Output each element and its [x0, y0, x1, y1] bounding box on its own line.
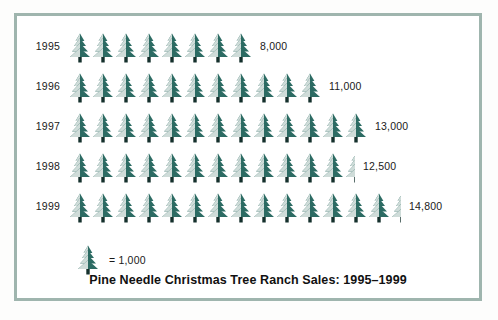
row-value-label: 14,800	[402, 200, 442, 212]
christmas-tree-icon	[230, 152, 252, 183]
christmas-tree-icon	[230, 32, 252, 63]
row-value-label: 13,000	[368, 120, 408, 132]
row-icon-group	[69, 109, 368, 143]
pictograph-legend: = 1,000	[77, 244, 146, 275]
pictograph-frame: 19958,000199611,000199713,000199812,5001…	[14, 13, 482, 301]
christmas-tree-icon	[184, 72, 206, 103]
christmas-tree-icon	[253, 72, 275, 103]
christmas-tree-icon	[345, 192, 367, 223]
row-value-label: 11,000	[322, 80, 362, 92]
christmas-tree-icon	[138, 112, 160, 143]
christmas-tree-icon	[207, 72, 229, 103]
christmas-tree-icon	[345, 112, 367, 143]
row-year-label: 1997	[17, 120, 69, 132]
row-icon-group	[69, 189, 402, 223]
christmas-tree-icon	[207, 192, 229, 223]
christmas-tree-icon	[276, 192, 298, 223]
christmas-tree-icon	[115, 72, 137, 103]
christmas-tree-icon	[92, 72, 114, 103]
christmas-tree-icon	[230, 72, 252, 103]
christmas-tree-icon	[322, 152, 344, 183]
christmas-tree-icon	[69, 152, 91, 183]
christmas-tree-icon	[184, 192, 206, 223]
christmas-tree-icon	[322, 112, 344, 143]
christmas-tree-icon	[276, 112, 298, 143]
christmas-tree-icon	[138, 152, 160, 183]
christmas-tree-icon	[299, 112, 321, 143]
row-value-label: 12,500	[356, 160, 396, 172]
christmas-tree-icon-partial	[391, 192, 401, 223]
christmas-tree-icon	[69, 32, 91, 63]
christmas-tree-icon	[92, 112, 114, 143]
christmas-tree-icon	[184, 32, 206, 63]
pictograph-row: 199812,500	[17, 146, 479, 186]
christmas-tree-icon	[322, 192, 344, 223]
christmas-tree-icon-partial	[345, 152, 355, 183]
christmas-tree-icon	[207, 112, 229, 143]
pictograph-row: 199713,000	[17, 106, 479, 146]
christmas-tree-icon	[161, 32, 183, 63]
christmas-tree-icon	[207, 152, 229, 183]
christmas-tree-icon	[69, 112, 91, 143]
pictograph-row: 199611,000	[17, 66, 479, 106]
christmas-tree-icon	[253, 112, 275, 143]
christmas-tree-icon	[92, 32, 114, 63]
christmas-tree-icon	[207, 32, 229, 63]
christmas-tree-icon	[92, 152, 114, 183]
christmas-tree-icon	[138, 72, 160, 103]
christmas-tree-icon	[115, 112, 137, 143]
christmas-tree-icon	[69, 192, 91, 223]
christmas-tree-icon	[161, 152, 183, 183]
row-year-label: 1998	[17, 160, 69, 172]
christmas-tree-icon	[276, 152, 298, 183]
christmas-tree-icon	[299, 72, 321, 103]
row-year-label: 1999	[17, 200, 69, 212]
pictograph-row: 19958,000	[17, 26, 479, 66]
pictograph-row: 199914,800	[17, 186, 479, 226]
christmas-tree-icon	[115, 152, 137, 183]
christmas-tree-icon	[276, 72, 298, 103]
christmas-tree-icon	[115, 192, 137, 223]
christmas-tree-icon	[184, 152, 206, 183]
row-year-label: 1995	[17, 40, 69, 52]
christmas-tree-icon	[161, 192, 183, 223]
legend-label: = 1,000	[99, 254, 146, 266]
christmas-tree-icon	[230, 112, 252, 143]
christmas-tree-icon	[115, 32, 137, 63]
row-icon-group	[69, 69, 322, 103]
christmas-tree-icon	[368, 192, 390, 223]
christmas-tree-icon	[92, 192, 114, 223]
row-value-label: 8,000	[253, 40, 287, 52]
row-icon-group	[69, 29, 253, 63]
legend-christmas-tree-icon	[77, 244, 99, 275]
christmas-tree-icon	[161, 112, 183, 143]
christmas-tree-icon	[184, 112, 206, 143]
christmas-tree-icon	[161, 72, 183, 103]
christmas-tree-icon	[299, 152, 321, 183]
christmas-tree-icon	[230, 192, 252, 223]
row-year-label: 1996	[17, 80, 69, 92]
christmas-tree-icon	[69, 72, 91, 103]
chart-title: Pine Needle Christmas Tree Ranch Sales: …	[17, 273, 479, 287]
pictograph-rows: 19958,000199611,000199713,000199812,5001…	[17, 26, 479, 226]
christmas-tree-icon	[138, 192, 160, 223]
christmas-tree-icon	[138, 32, 160, 63]
christmas-tree-icon	[253, 152, 275, 183]
christmas-tree-icon	[253, 192, 275, 223]
row-icon-group	[69, 149, 356, 183]
christmas-tree-icon	[299, 192, 321, 223]
